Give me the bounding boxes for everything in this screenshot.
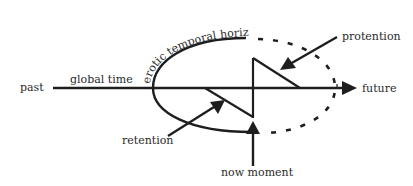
label-now-moment: now moment <box>221 166 294 179</box>
label-future: future <box>362 82 396 95</box>
label-retention: retention <box>122 134 173 147</box>
label-global-time: global time <box>70 73 133 86</box>
label-protention: protention <box>342 30 401 43</box>
protention-arrowhead-icon <box>280 57 296 70</box>
future-arrowhead-icon <box>342 81 357 95</box>
now-moment-arrowhead-icon <box>246 121 260 134</box>
now-moment-arrow <box>246 121 260 166</box>
temporal-horizon-diagram: past global time erotic temporal horizon… <box>0 0 413 186</box>
label-erotic-temporal-horizon: erotic temporal horizon <box>0 0 249 85</box>
label-past: past <box>20 81 44 94</box>
protention-arrow <box>280 37 337 70</box>
